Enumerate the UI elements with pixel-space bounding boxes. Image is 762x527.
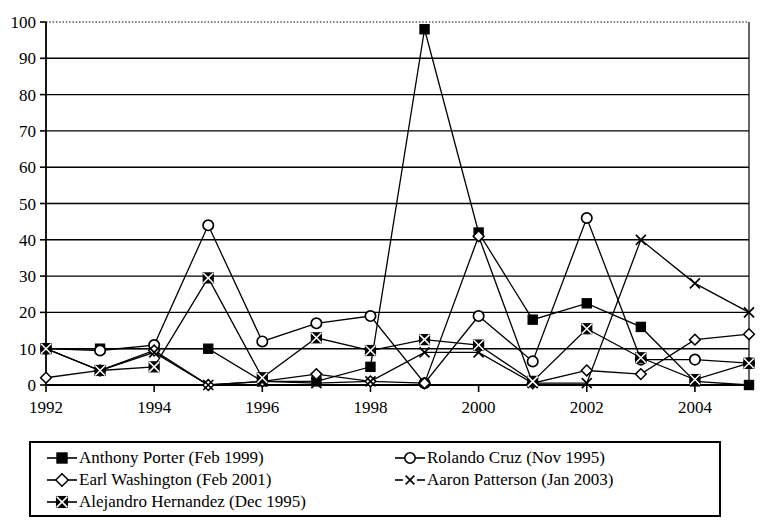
legend-item-anthony-porter: Anthony Porter (Feb 1999) — [45, 448, 393, 468]
y-tick-label: 60 — [19, 158, 36, 177]
x-tick-label: 2002 — [570, 398, 604, 417]
data-point-marker-1-10 — [582, 213, 592, 223]
y-tick-label: 10 — [19, 340, 36, 359]
data-point-marker-1-12 — [690, 354, 700, 364]
legend-item-earl-washington: Earl Washington (Feb 2001) — [45, 470, 393, 490]
x-tick-label: 1994 — [137, 398, 172, 417]
x-tick-label: 2004 — [678, 398, 713, 417]
y-tick-label: 20 — [19, 303, 36, 322]
crossed-square-marker-icon — [45, 493, 79, 511]
y-tick-label: 100 — [11, 13, 37, 32]
data-point-marker-2-11 — [635, 369, 646, 380]
data-point-marker-1-5 — [311, 318, 321, 328]
open-diamond-marker-icon — [45, 471, 79, 489]
x-cross-marker-icon — [393, 471, 427, 489]
data-point-marker-0-3 — [204, 344, 213, 353]
data-point-marker-1-9 — [527, 356, 537, 366]
legend-label: Rolando Cruz (Nov 1995) — [427, 448, 605, 468]
data-point-marker-0-7 — [420, 25, 429, 34]
open-circle-marker-icon — [393, 449, 427, 467]
data-point-marker-0-13 — [744, 380, 753, 389]
y-tick-label: 80 — [19, 86, 36, 105]
y-tick-label: 40 — [19, 231, 36, 250]
chart-legend: Anthony Porter (Feb 1999) Rolando Cruz (… — [29, 441, 721, 517]
legend-label: Alejandro Hernandez (Dec 1995) — [79, 492, 306, 512]
y-tick-label: 50 — [19, 195, 36, 214]
x-tick-label: 2000 — [462, 398, 496, 417]
legend-row: Earl Washington (Feb 2001) Aaron Patters… — [45, 470, 719, 492]
data-point-marker-2-12 — [690, 334, 701, 345]
data-point-marker-0-10 — [582, 299, 591, 308]
data-point-marker-1-3 — [203, 220, 213, 230]
legend-label: Earl Washington (Feb 2001) — [79, 470, 271, 490]
y-tick-label: 0 — [28, 376, 37, 395]
legend-item-alejandro-hernandez: Alejandro Hernandez (Dec 1995) — [45, 492, 393, 512]
legend-inner: Anthony Porter (Feb 1999) Rolando Cruz (… — [31, 443, 719, 515]
data-point-marker-0-6 — [366, 362, 375, 371]
legend-label: Anthony Porter (Feb 1999) — [79, 448, 264, 468]
y-tick-label: 70 — [19, 122, 36, 141]
data-point-marker-2-13 — [744, 329, 755, 340]
data-point-marker-1-4 — [257, 336, 267, 346]
x-tick-label: 1998 — [353, 398, 387, 417]
data-point-marker-1-1 — [95, 345, 105, 355]
legend-row: Anthony Porter (Feb 1999) Rolando Cruz (… — [45, 448, 719, 470]
data-point-marker-1-6 — [365, 311, 375, 321]
y-tick-label: 90 — [19, 49, 36, 68]
legend-item-aaron-patterson: Aaron Patterson (Jan 2003) — [393, 470, 614, 490]
data-point-marker-2-0 — [41, 372, 52, 383]
x-tick-label: 1992 — [29, 398, 63, 417]
y-tick-label: 30 — [19, 267, 36, 286]
data-point-marker-0-11 — [636, 322, 645, 331]
data-point-marker-0-9 — [528, 315, 537, 324]
x-tick-label: 1996 — [245, 398, 279, 417]
legend-item-rolando-cruz: Rolando Cruz (Nov 1995) — [393, 448, 605, 468]
legend-row: Alejandro Hernandez (Dec 1995) — [45, 492, 719, 514]
filled-square-marker-icon — [45, 449, 79, 467]
legend-label: Aaron Patterson (Jan 2003) — [427, 470, 614, 490]
data-point-marker-1-8 — [473, 311, 483, 321]
chart-figure: 0102030405060708090100199219941996199820… — [0, 0, 762, 527]
